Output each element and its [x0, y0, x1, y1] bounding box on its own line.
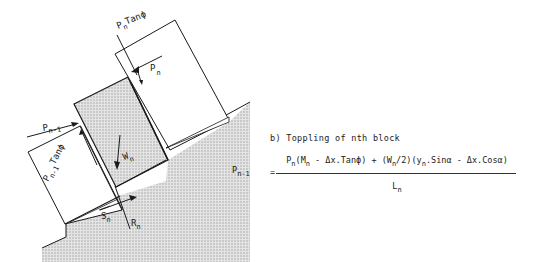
formula-numerator: Pn(Mn - Δx.Tanϕ) + (Wn/2)(yn.Sinα - Δx.C… [277, 155, 517, 168]
toppling-formula: Pn-1 = Pn(Mn - Δx.Tanϕ) + (Wn/2)(yn.Sinα… [232, 155, 532, 215]
formula-lhs: Pn-1 [232, 165, 250, 178]
pn1-arrowhead [71, 122, 79, 127]
label-pn-tanphi: PnTanϕ [115, 9, 149, 34]
formula-equals: = [270, 167, 275, 177]
label-pn-minus-1: Pn-1 [42, 121, 62, 136]
fraction-bar [276, 173, 516, 174]
formula-denominator: Ln [277, 181, 517, 194]
figure-caption: b) Toppling of nth block [270, 133, 400, 143]
toppling-block-diagram: PnTanϕ Pn Pn-1 Pn-1Tanϕ Wn Sn Rn [0, 0, 250, 262]
